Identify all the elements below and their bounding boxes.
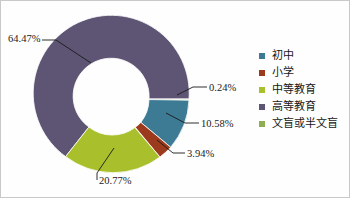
legend-swatch-icon (259, 53, 265, 59)
data-label-gaodeng-jiaoyu: 64.47% (8, 33, 40, 44)
legend-item-zhongdeng-jiaoyu[interactable]: 中等教育 (259, 81, 347, 98)
donut-chart: 64.47% 0.24% 10.58% 3.94% 20.77% (1, 1, 231, 198)
legend-item-chuzhong[interactable]: 初中 (259, 47, 347, 64)
legend-item-wenmang-ban-wenmang[interactable]: 文盲或半文盲 (259, 115, 347, 132)
chart-legend: 初中 小学 中等教育 高等教育 文盲或半文盲 (259, 47, 347, 132)
data-label-chuzhong: 10.58% (201, 118, 233, 129)
legend-item-xiaoxue[interactable]: 小学 (259, 64, 347, 81)
chart-page: 64.47% 0.24% 10.58% 3.94% 20.77% 初中 小学 中… (0, 0, 350, 198)
data-label-zhongdeng-jiaoyu: 20.77% (99, 175, 131, 186)
legend-item-gaodeng-jiaoyu[interactable]: 高等教育 (259, 98, 347, 115)
data-label-wenmang-ban-wenmang: 0.24% (209, 82, 236, 93)
legend-swatch-icon (259, 87, 265, 93)
legend-label: 高等教育 (272, 101, 316, 112)
legend-swatch-icon (259, 121, 265, 127)
legend-label: 文盲或半文盲 (272, 118, 338, 129)
donut-chart-svg (1, 1, 231, 198)
legend-swatch-icon (259, 104, 265, 110)
data-label-xiaoxue: 3.94% (187, 148, 214, 159)
legend-swatch-icon (259, 70, 265, 76)
legend-label: 初中 (272, 50, 294, 61)
legend-label: 小学 (272, 67, 294, 78)
legend-label: 中等教育 (272, 84, 316, 95)
